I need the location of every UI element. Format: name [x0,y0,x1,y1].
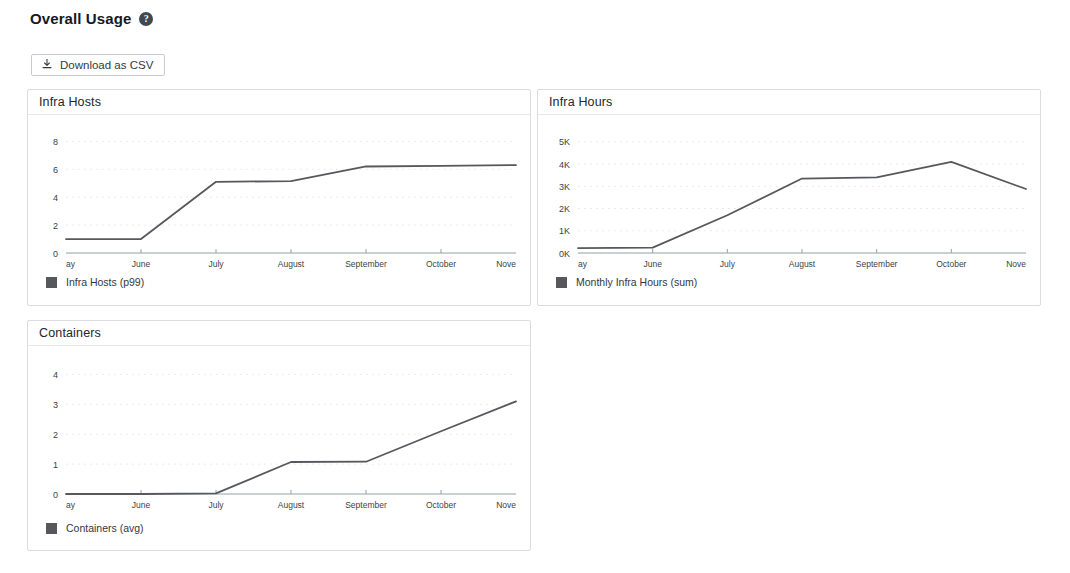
svg-text:8: 8 [53,137,58,147]
panel-title: Infra Hosts [39,95,101,109]
legend-label: Infra Hosts (p99) [66,276,144,288]
chart-legend[interactable]: Infra Hosts (p99) [46,276,144,288]
panel-header: Containers [28,321,530,346]
svg-text:July: July [720,259,736,269]
legend-label: Monthly Infra Hours (sum) [576,276,697,288]
svg-text:ay: ay [578,259,588,269]
svg-text:September: September [856,259,898,269]
svg-text:0: 0 [53,249,58,259]
panel-header: Infra Hours [538,90,1040,115]
svg-text:Nove: Nove [1006,259,1026,269]
svg-text:October: October [936,259,966,269]
panel-title: Infra Hours [549,95,612,109]
svg-text:5K: 5K [559,137,570,147]
svg-text:ay: ay [66,500,76,510]
svg-text:June: June [132,259,151,269]
svg-text:0: 0 [53,490,58,500]
legend-label: Containers (avg) [66,522,144,534]
svg-text:4: 4 [53,370,58,380]
line-chart-infra-hosts[interactable]: 02468ayJuneJulyAugustSeptemberOctoberNov… [28,115,530,270]
legend-color-swatch [46,277,57,288]
svg-text:Nove: Nove [496,500,516,510]
chart-panel-infra-hours: Infra Hours 0K1K2K3K4K5KayJuneJulyAugust… [537,89,1041,306]
svg-text:August: August [789,259,816,269]
svg-text:3: 3 [53,400,58,410]
line-chart-infra-hours[interactable]: 0K1K2K3K4K5KayJuneJulyAugustSeptemberOct… [538,115,1040,270]
svg-text:July: July [208,500,224,510]
chart-area[interactable]: 01234ayJuneJulyAugustSeptemberOctoberNov… [28,346,530,516]
svg-text:1: 1 [53,460,58,470]
chart-legend[interactable]: Monthly Infra Hours (sum) [556,276,697,288]
chart-panel-infra-hosts: Infra Hosts 02468ayJuneJulyAugustSeptemb… [27,89,531,306]
download-as-csv-button[interactable]: Download as CSV [31,54,165,76]
svg-text:June: June [132,500,151,510]
svg-text:August: August [278,259,305,269]
svg-text:October: October [426,259,456,269]
svg-text:1K: 1K [559,226,570,236]
page-title: Overall Usage [30,10,131,27]
panel-header: Infra Hosts [28,90,530,115]
svg-text:Nove: Nove [496,259,516,269]
legend-color-swatch [556,277,567,288]
svg-text:6: 6 [53,165,58,175]
svg-text:September: September [345,500,387,510]
chart-area[interactable]: 02468ayJuneJulyAugustSeptemberOctoberNov… [28,115,530,270]
line-chart-containers[interactable]: 01234ayJuneJulyAugustSeptemberOctoberNov… [28,346,530,516]
question-mark-circle-icon[interactable]: ? [139,12,153,26]
svg-text:4: 4 [53,193,58,203]
svg-text:2K: 2K [559,204,570,214]
svg-text:2: 2 [53,221,58,231]
svg-text:0K: 0K [559,249,570,259]
page-header: Overall Usage ? [30,10,153,27]
download-tray-icon [41,58,53,72]
download-as-csv-label: Download as CSV [60,59,153,71]
svg-text:June: June [643,259,662,269]
svg-text:September: September [345,259,387,269]
svg-text:ay: ay [66,259,76,269]
chart-area[interactable]: 0K1K2K3K4K5KayJuneJulyAugustSeptemberOct… [538,115,1040,270]
svg-text:3K: 3K [559,182,570,192]
svg-text:2: 2 [53,430,58,440]
svg-text:4K: 4K [559,160,570,170]
svg-text:October: October [426,500,456,510]
svg-text:August: August [278,500,305,510]
svg-text:July: July [208,259,224,269]
panel-title: Containers [39,326,101,340]
chart-legend[interactable]: Containers (avg) [46,522,144,534]
chart-panel-containers: Containers 01234ayJuneJulyAugustSeptembe… [27,320,531,551]
legend-color-swatch [46,523,57,534]
